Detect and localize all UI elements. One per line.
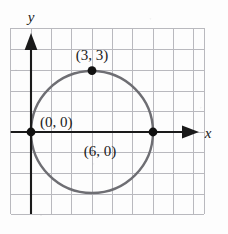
point-6-0[interactable]: [149, 128, 158, 137]
point-origin[interactable]: [27, 128, 36, 137]
label-6-0: (6, 0): [84, 143, 117, 160]
y-axis-label: y: [26, 9, 35, 25]
circle-plot-svg: (0, 0) (3, 3) (6, 0) x y: [0, 0, 228, 234]
label-3-3: (3, 3): [76, 47, 109, 64]
coordinate-grid-figure: (0, 0) (3, 3) (6, 0) x y: [0, 0, 228, 234]
point-3-3[interactable]: [88, 66, 97, 75]
x-axis-label: x: [204, 125, 212, 141]
label-origin: (0, 0): [40, 114, 73, 131]
